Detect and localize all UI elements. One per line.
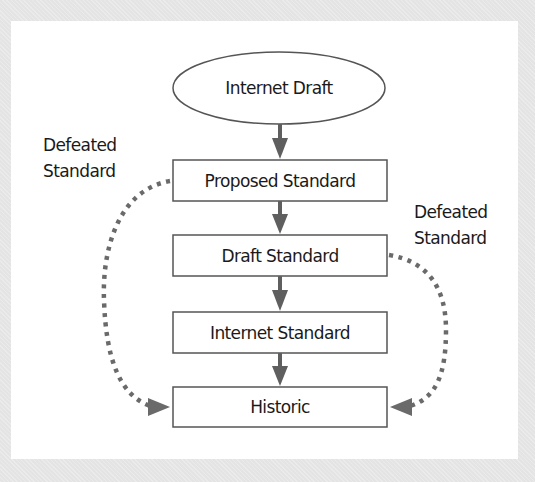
- label-defeated-standard-left: Defeated Standard: [43, 135, 117, 181]
- node-historic: Historic: [173, 387, 387, 427]
- arrowhead-icon: [272, 290, 288, 311]
- node-label: Proposed Standard: [205, 171, 356, 191]
- node-draft-standard: Draft Standard: [173, 235, 387, 276]
- node-label: Historic: [250, 397, 310, 417]
- label-line-1: Defeated: [43, 135, 117, 155]
- arrowhead-icon: [390, 398, 412, 416]
- arrowhead-icon: [272, 366, 288, 386]
- arrowhead-icon: [148, 398, 170, 416]
- label-line-2: Standard: [43, 161, 116, 181]
- node-label: Draft Standard: [221, 246, 338, 266]
- arrow-draft-to-proposed: [272, 124, 288, 159]
- dotted-arrow-draft-to-historic: [389, 255, 446, 416]
- label-defeated-standard-right: Defeated Standard: [414, 202, 488, 248]
- dotted-arrow-proposed-to-historic: [104, 181, 170, 416]
- standards-track-diagram: Internet Draft Proposed Standard Draft S…: [0, 0, 535, 482]
- node-label: Internet Draft: [225, 78, 333, 98]
- node-internet-draft: Internet Draft: [173, 52, 385, 124]
- arrow-proposed-to-draft: [272, 201, 288, 234]
- arrow-draft-to-internet-standard: [272, 276, 288, 311]
- label-line-1: Defeated: [414, 202, 488, 222]
- label-line-2: Standard: [414, 228, 487, 248]
- arrowhead-icon: [272, 138, 288, 159]
- node-internet-standard: Internet Standard: [173, 312, 387, 353]
- arrow-internet-standard-to-historic: [272, 353, 288, 386]
- node-label: Internet Standard: [210, 323, 350, 343]
- node-proposed-standard: Proposed Standard: [173, 160, 387, 201]
- arrowhead-icon: [272, 214, 288, 234]
